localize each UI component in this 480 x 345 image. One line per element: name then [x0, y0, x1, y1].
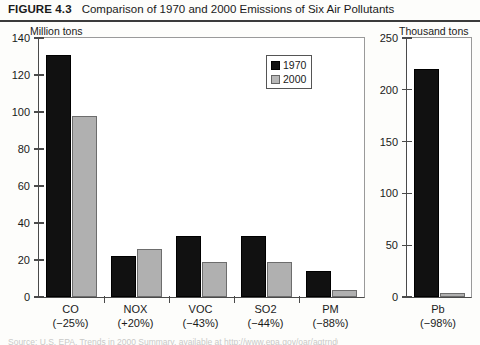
- y-axis-tick-label: 100: [380, 188, 398, 199]
- y-axis-tick: [34, 37, 44, 38]
- category-name: CO: [38, 303, 103, 317]
- y-axis-tick: [402, 89, 412, 90]
- y-axis-tick-label: 0: [392, 292, 398, 303]
- bar-nox-2000: [137, 249, 162, 297]
- source-note: Source: U.S. EPA, Trends in 2000 Summary…: [8, 337, 338, 345]
- category-name: Pb: [406, 303, 470, 317]
- y-axis-tick-label: 50: [386, 240, 398, 251]
- legend-label-1970: 1970: [283, 59, 306, 71]
- left-chart-plot-area: 020406080100120140: [38, 37, 365, 298]
- category-percent-change: (−98%): [406, 317, 470, 331]
- bar-pm-2000: [332, 290, 357, 297]
- figure-root: FIGURE 4.3Comparison of 1970 and 2000 Em…: [0, 0, 480, 345]
- x-axis-tick: [169, 296, 170, 303]
- y-axis-tick-label: 60: [18, 181, 30, 192]
- left-axis-unit-label: Million tons: [30, 25, 83, 37]
- y-axis-tick: [402, 296, 412, 297]
- bar-pm-1970: [306, 271, 331, 297]
- x-axis-category-so2: SO2(−44%): [233, 303, 298, 330]
- category-percent-change: (−25%): [38, 317, 103, 331]
- x-axis-tick: [299, 296, 300, 303]
- y-axis-tick: [402, 245, 412, 246]
- header-divider: [0, 20, 480, 22]
- figure-number: FIGURE 4.3: [8, 3, 72, 15]
- category-percent-change: (−44%): [233, 317, 298, 331]
- page-title: Comparison of 1970 and 2000 Emissions of…: [82, 3, 395, 15]
- x-axis-tick: [234, 296, 235, 303]
- category-percent-change: (−88%): [298, 317, 363, 331]
- figure-header: FIGURE 4.3Comparison of 1970 and 2000 Em…: [0, 0, 480, 22]
- y-axis-tick: [402, 193, 412, 194]
- y-axis-tick-label: 140: [12, 33, 30, 44]
- y-axis-tick: [34, 148, 44, 149]
- y-axis-tick-label: 250: [380, 33, 398, 44]
- category-name: PM: [298, 303, 363, 317]
- x-axis-tick: [104, 296, 105, 303]
- bar-co-1970: [46, 55, 71, 297]
- category-percent-change: (+20%): [103, 317, 168, 331]
- x-axis-category-co: CO(−25%): [38, 303, 103, 330]
- bar-so2-1970: [241, 236, 266, 297]
- y-axis-tick-label: 120: [12, 70, 30, 81]
- y-axis-tick: [34, 259, 44, 260]
- chart-legend: 1970 2000: [266, 55, 312, 89]
- right-chart-plot-area: 050100150200250: [406, 37, 472, 298]
- legend-item-1970: 1970: [271, 59, 306, 71]
- bar-nox-1970: [111, 256, 136, 297]
- category-name: NOX: [103, 303, 168, 317]
- x-axis-category-nox: NOX(+20%): [103, 303, 168, 330]
- y-axis-tick: [34, 222, 44, 223]
- y-axis-tick-label: 100: [12, 107, 30, 118]
- y-axis-tick: [34, 74, 44, 75]
- x-axis-category-pm: PM(−88%): [298, 303, 363, 330]
- legend-label-2000: 2000: [283, 73, 306, 85]
- right-axis-unit-label: Thousand tons: [399, 25, 468, 37]
- x-axis-category-pb: Pb(−98%): [406, 303, 470, 330]
- y-axis-tick: [34, 296, 44, 297]
- y-axis-tick-label: 200: [380, 84, 398, 95]
- y-axis-tick-label: 20: [18, 255, 30, 266]
- bar-pb-1970: [414, 69, 439, 297]
- x-axis-category-voc: VOC(−43%): [168, 303, 233, 330]
- y-axis-tick: [402, 141, 412, 142]
- category-name: SO2: [233, 303, 298, 317]
- y-axis-tick-label: 150: [380, 136, 398, 147]
- y-axis-tick-label: 0: [24, 292, 30, 303]
- bar-voc-2000: [202, 262, 227, 297]
- y-axis-tick-label: 80: [18, 144, 30, 155]
- bar-co-2000: [72, 116, 97, 297]
- legend-item-2000: 2000: [271, 73, 306, 85]
- category-percent-change: (−43%): [168, 317, 233, 331]
- bar-pb-2000: [440, 293, 465, 297]
- y-axis-tick: [34, 185, 44, 186]
- category-name: VOC: [168, 303, 233, 317]
- bar-so2-2000: [267, 262, 292, 297]
- bar-voc-1970: [176, 236, 201, 297]
- y-axis-tick: [402, 37, 412, 38]
- figure-caption: FIGURE 4.3Comparison of 1970 and 2000 Em…: [8, 3, 394, 15]
- y-axis-tick-label: 40: [18, 218, 30, 229]
- y-axis-tick: [34, 111, 44, 112]
- legend-swatch-2000-icon: [271, 75, 280, 84]
- legend-swatch-1970-icon: [271, 61, 280, 70]
